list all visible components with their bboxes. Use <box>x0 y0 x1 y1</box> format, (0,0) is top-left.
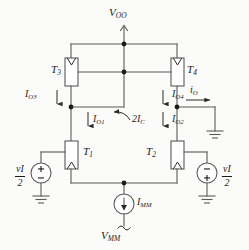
current-arrow-2IC <box>114 112 130 120</box>
left-branch-wire <box>71 72 124 141</box>
ground-output-symbol <box>207 131 223 138</box>
label-current-iO: iO <box>190 85 198 97</box>
label-current-IO2: IO2 <box>172 114 184 126</box>
label-transistor-T3: T3 <box>51 64 61 77</box>
tail-current-source-IMM <box>114 183 134 230</box>
label-supply-negative: VMM <box>101 230 120 243</box>
label-transistor-T1: T1 <box>83 146 93 159</box>
circuit-schematic-canvas <box>0 0 249 250</box>
label-current-IO3: IO3 <box>25 89 37 101</box>
label-supply-positive: VOO <box>109 7 127 20</box>
transistor-T2-symbol <box>124 141 207 183</box>
label-transistor-T2: T2 <box>146 146 156 159</box>
label-transistor-T4: T4 <box>187 64 197 77</box>
fraction-denominator: 2 <box>222 178 232 189</box>
label-source-left-value: vI 2 <box>15 164 25 188</box>
fraction-denominator: 2 <box>15 178 25 189</box>
label-source-right-value: vI 2 <box>222 164 232 188</box>
fraction-numerator: vI <box>222 164 232 175</box>
label-current-IO1: IO1 <box>93 114 105 126</box>
transistor-T3-symbol <box>65 58 124 107</box>
label-current-IMM: IMM <box>137 197 152 209</box>
label-current-IO4: IO4 <box>172 89 184 101</box>
label-current-2IC: 2IC <box>132 114 145 126</box>
fraction-numerator: vI <box>15 164 25 175</box>
circuit-diagram-figure: VOO VMM T3 T4 T1 T2 IO3 IO4 IO1 IO2 iO 2… <box>0 0 249 250</box>
